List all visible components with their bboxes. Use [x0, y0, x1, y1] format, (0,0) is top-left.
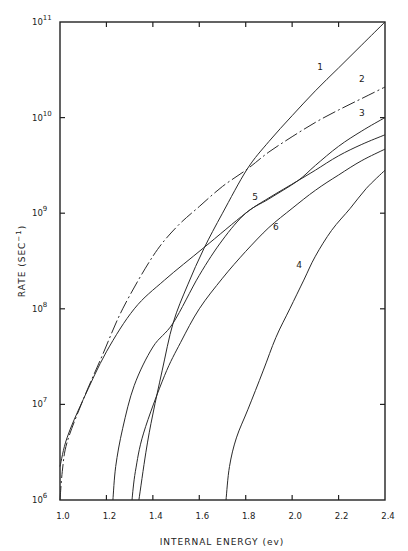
plot-frame	[60, 22, 385, 500]
rate-vs-energy-chart: 1.01.21.41.61.82.02.22.4 106107108109101…	[0, 0, 408, 551]
y-tick-label: 1010	[32, 110, 52, 123]
curve-label-2: 2	[359, 74, 365, 84]
y-tick-label: 108	[32, 301, 47, 314]
y-axis-label: RATE (SEC−1)	[15, 225, 27, 297]
y-axis-label-main: RATE (SEC	[17, 242, 27, 298]
x-tick-label: 1.4	[149, 511, 163, 521]
y-tick-label: 107	[32, 396, 47, 409]
y-tick-label: 109	[32, 205, 47, 218]
x-tick-label: 2.2	[335, 511, 349, 521]
x-tick-label: 2.4	[381, 511, 395, 521]
y-tick-label: 1011	[32, 14, 52, 27]
y-axis-label-exponent: −1	[15, 229, 23, 241]
chart-canvas: 1.01.21.41.61.82.02.22.4 106107108109101…	[0, 0, 408, 551]
curve-label-6: 6	[273, 222, 279, 232]
curves	[60, 22, 385, 500]
x-tick-label: 1.6	[196, 511, 210, 521]
x-tick-label: 1.0	[56, 511, 70, 521]
x-tick-label: 1.2	[103, 511, 117, 521]
x-axis-label: INTERNAL ENERGY (ev)	[160, 537, 285, 547]
x-axis-ticks: 1.01.21.41.61.82.02.22.4	[56, 22, 395, 521]
curve-labels: 123456	[252, 62, 365, 270]
x-tick-label: 1.8	[242, 511, 256, 521]
curve-2	[60, 87, 385, 500]
curve-4	[226, 170, 385, 500]
curve-5	[60, 135, 385, 467]
curve-6	[132, 149, 385, 500]
curve-3	[113, 118, 385, 500]
curve-label-4: 4	[296, 260, 302, 270]
curve-1	[139, 22, 385, 500]
curve-label-1: 1	[317, 62, 323, 72]
curve-label-3: 3	[359, 108, 365, 118]
x-tick-label: 2.0	[288, 511, 302, 521]
y-axis-label-close: )	[17, 225, 27, 230]
curve-label-5: 5	[252, 192, 258, 202]
y-tick-label: 106	[32, 492, 48, 505]
